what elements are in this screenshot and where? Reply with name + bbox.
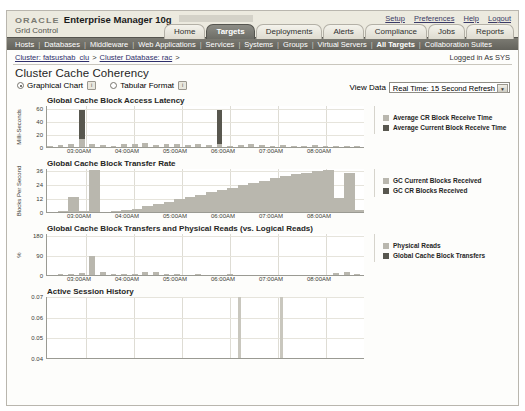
chart-title: Global Cache Block Transfers and Physica… — [7, 224, 518, 233]
legend-swatch-icon — [383, 253, 389, 259]
series-segment — [79, 273, 85, 275]
tab-deployments[interactable]: Deployments — [256, 24, 323, 39]
subnav-item-hosts[interactable]: Hosts — [15, 40, 34, 49]
subnav-separator: | — [419, 40, 421, 49]
tab-home[interactable]: Home — [164, 24, 205, 39]
view-data-selected-value: Real Time: 15 Second Refresh — [393, 84, 495, 93]
subnav-item-all-targets[interactable]: All Targets — [377, 40, 415, 49]
y-tick-label: 0.06 — [31, 315, 43, 321]
y-axis-ticks: 0204060 — [25, 106, 45, 148]
chart-title: Global Cache Block Transfer Rate — [7, 159, 518, 168]
subnav-item-databases[interactable]: Databases — [44, 40, 80, 49]
chevron-down-icon[interactable]: ▼ — [497, 84, 508, 93]
view-data-label: View Data — [350, 83, 386, 92]
breadcrumb-item-cluster[interactable]: Cluster: fatsushab_clu — [15, 53, 89, 62]
series-segment — [323, 146, 329, 147]
tab-alerts[interactable]: Alerts — [323, 24, 363, 39]
chart-legend: GC Current Blocks ReceivedGC CR Blocks R… — [374, 169, 482, 197]
tab-jobs[interactable]: Jobs — [428, 24, 465, 39]
grid-line-horizontal — [47, 297, 364, 298]
legend-label: Global Cache Block Transfers — [393, 252, 485, 259]
info-icon[interactable]: i — [178, 81, 187, 90]
series-segment — [121, 144, 127, 147]
tab-reports[interactable]: Reports — [466, 24, 514, 39]
plot-column: Blocks Per Second012243603:00AM04:00AM05… — [7, 169, 364, 222]
radio-graphical-chart[interactable]: Graphical Chart i — [17, 81, 96, 90]
series-segment — [111, 146, 117, 147]
subnav-item-virtual-servers[interactable]: Virtual Servers — [318, 40, 367, 49]
subnav-separator: | — [132, 40, 134, 49]
x-tick-label: 04:00AM — [115, 213, 139, 219]
breadcrumb-item-cluster-database[interactable]: Cluster Database: rac — [100, 53, 173, 62]
tab-targets[interactable]: Targets — [206, 24, 254, 39]
series-segment — [68, 274, 74, 275]
series-segment — [58, 145, 64, 147]
grid-line-vertical — [230, 297, 231, 358]
series-segment — [174, 199, 185, 212]
series-segment — [68, 144, 74, 147]
series-segment — [68, 197, 79, 212]
series-segment — [206, 192, 217, 212]
series-segment — [185, 197, 196, 212]
grid-line-horizontal — [47, 236, 364, 237]
help-link[interactable]: Help — [464, 14, 479, 23]
series-segment — [280, 145, 286, 147]
plot-column: Milli-Seconds020406003:00AM04:00AM05:00A… — [7, 106, 364, 157]
subnav-separator: | — [312, 40, 314, 49]
subnav-item-services[interactable]: Services — [206, 40, 235, 49]
info-icon[interactable]: i — [87, 81, 96, 90]
series-segment — [259, 145, 265, 147]
em-page: ORACLE Enterprise Manager 10g Grid Contr… — [6, 10, 519, 406]
breadcrumb-separator: > — [175, 53, 179, 62]
radio-tabular-format-input[interactable] — [110, 82, 117, 89]
legend-swatch-icon — [383, 178, 389, 184]
view-data-select[interactable]: Real Time: 15 Second Refresh ▼ — [389, 82, 510, 93]
radio-graphical-chart-input[interactable] — [17, 82, 24, 89]
x-tick-label: 07:00AM — [259, 276, 283, 282]
x-tick-label: 05:00AM — [163, 148, 187, 154]
chart-block-1: Global Cache Block Transfer RateBlocks P… — [7, 159, 518, 222]
plot-area: 0.070.060.050.04 — [13, 297, 364, 359]
series-segment — [217, 110, 223, 147]
subnav-item-groups[interactable]: Groups — [283, 40, 308, 49]
series-segment — [291, 146, 297, 147]
series-segment — [217, 190, 228, 212]
y-axis-label: Blocks Per Second — [13, 169, 25, 213]
y-axis-label: % — [13, 234, 25, 276]
y-tick-label: 36 — [36, 168, 43, 174]
series-segment — [312, 171, 323, 212]
chart-row: 0.070.060.050.04 — [7, 297, 518, 368]
product-title: Enterprise Manager 10g — [64, 14, 172, 25]
grid-line-vertical — [278, 297, 279, 358]
series-segment — [142, 272, 148, 275]
subnav-separator: | — [84, 40, 86, 49]
logout-link[interactable]: Logout — [488, 14, 511, 23]
subnav-item-systems[interactable]: Systems — [244, 40, 273, 49]
subnav-item-collaboration-suites[interactable]: Collaboration Suites — [425, 40, 492, 49]
series-segment — [164, 274, 170, 275]
x-axis-ticks: 03:00AM04:00AM05:00AM06:00AM07:00AM08:00… — [40, 148, 358, 157]
x-tick-label: 05:00AM — [163, 213, 187, 219]
plot-canvas — [46, 297, 364, 359]
y-axis-ticks: 0.070.060.050.04 — [25, 297, 45, 359]
chart-block-3: Active Session History0.070.060.050.04 — [7, 287, 518, 368]
grid-line-vertical — [278, 106, 279, 147]
plot-canvas — [46, 169, 364, 213]
tab-compliance[interactable]: Compliance — [365, 24, 427, 39]
series-segment — [227, 146, 233, 147]
radio-tabular-format[interactable]: Tabular Format i — [110, 81, 187, 90]
grid-line-horizontal — [47, 338, 364, 339]
subnav-item-web-applications[interactable]: Web Applications — [138, 40, 195, 49]
chart-block-2: Global Cache Block Transfers and Physica… — [7, 224, 518, 285]
preferences-link[interactable]: Preferences — [414, 14, 454, 23]
logged-in-status: Logged in As SYS — [450, 51, 510, 64]
grid-line-vertical — [326, 234, 327, 275]
x-tick-label: 07:00AM — [259, 148, 283, 154]
setup-link[interactable]: Setup — [385, 14, 405, 23]
subnav-item-middleware[interactable]: Middleware — [90, 40, 128, 49]
grid-line-vertical — [134, 234, 135, 275]
chart-row: Milli-Seconds020406003:00AM04:00AM05:00A… — [7, 106, 518, 157]
series-segment — [344, 173, 355, 212]
y-tick-label: 20 — [36, 132, 43, 138]
series-segment — [227, 274, 233, 275]
